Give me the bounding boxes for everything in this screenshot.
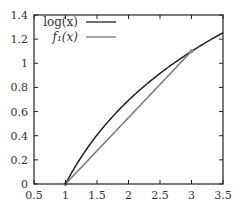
legend-label-f1: f₁(x) [52, 30, 79, 44]
series-log-line [66, 33, 224, 184]
y-tick-label: 1 [21, 57, 28, 70]
x-tick-label: 3.5 [214, 189, 232, 202]
y-tick-label: 0.4 [11, 130, 29, 143]
y-tick-label: 0.2 [11, 154, 29, 167]
y-axis: 00.20.40.60.811.21.4 [11, 9, 224, 191]
x-tick-label: 3 [188, 189, 195, 202]
y-tick-label: 1.2 [11, 33, 29, 46]
y-tick-label: 0 [21, 178, 28, 191]
y-tick-label: 0.6 [11, 106, 29, 119]
legend-label-log: log(x) [43, 15, 78, 29]
x-tick-label: 2 [125, 189, 132, 202]
x-tick-label: 1 [62, 189, 69, 202]
x-tick-label: 1.5 [88, 189, 106, 202]
y-tick-label: 1.4 [11, 9, 29, 22]
series-f1-line [66, 51, 192, 184]
y-tick-label: 0.8 [11, 81, 29, 94]
legend: log(x) f₁(x) [43, 15, 116, 44]
chart: 0.511.522.533.5 00.20.40.60.811.21.4 log… [0, 0, 242, 209]
data-marker [190, 49, 194, 53]
x-tick-label: 2.5 [151, 189, 169, 202]
